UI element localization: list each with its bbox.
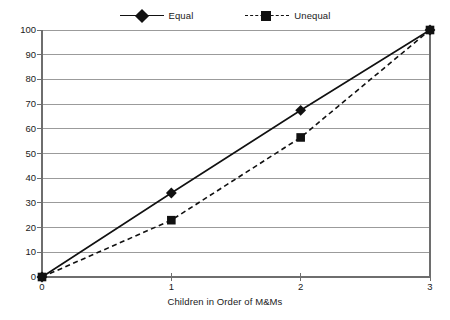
line-chart: Equal Unequal 0102030405060708090100 012… bbox=[0, 0, 450, 320]
gridlines bbox=[42, 30, 430, 252]
plot-area bbox=[0, 0, 450, 320]
data-point-marker-equal bbox=[166, 188, 177, 199]
data-point-marker-unequal bbox=[296, 133, 305, 142]
data-point-marker-unequal bbox=[38, 273, 47, 282]
data-point-marker-equal bbox=[295, 105, 306, 116]
data-point-marker-unequal bbox=[167, 216, 176, 225]
data-point-marker-unequal bbox=[426, 26, 435, 35]
y-axis-tick-marks bbox=[37, 30, 42, 277]
